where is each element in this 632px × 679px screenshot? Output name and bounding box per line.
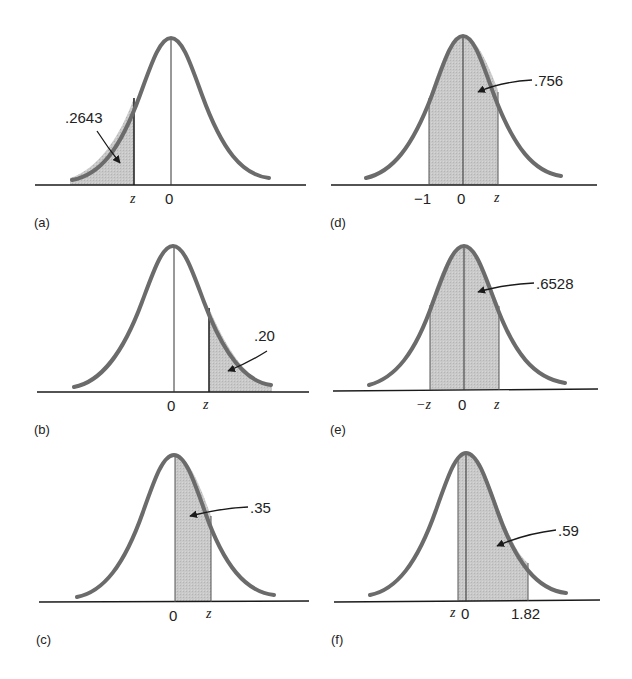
panel-label: (a)	[34, 215, 50, 230]
tick-z: z	[129, 191, 136, 206]
area-label: .35	[250, 499, 271, 516]
tick-zero: 0	[167, 397, 175, 414]
axis	[333, 389, 598, 391]
panel-d: .756 −1 0 z (d)	[330, 36, 597, 230]
panel-f: .59 z 0 1.82 (f)	[331, 453, 600, 647]
normal-curve-figure: .2643 z 0 (a) .756 −1 0 z (d) .20 0 z (b…	[0, 0, 632, 679]
panel-label: (b)	[34, 422, 50, 437]
tick-zero: 0	[165, 190, 173, 207]
area-label: .59	[558, 522, 579, 539]
area-label: .2643	[65, 109, 103, 126]
panel-c: .35 0 z (c)	[36, 455, 309, 647]
tick-zero: 0	[457, 190, 465, 207]
panel-b: .20 0 z (b)	[34, 246, 309, 437]
panel-label: (f)	[331, 632, 343, 647]
tick-zero: 0	[461, 605, 469, 622]
area-label: .6528	[536, 275, 574, 292]
panel-e: .6528 −z 0 z (e)	[330, 246, 598, 437]
tick-z: z	[202, 397, 209, 412]
tick-minus-one: −1	[414, 190, 431, 207]
panel-a: .2643 z 0 (a)	[34, 38, 306, 230]
panel-label: (e)	[330, 422, 346, 437]
area-label: .20	[254, 327, 275, 344]
shaded-area	[209, 308, 272, 392]
tick-z: z	[205, 606, 212, 621]
area-label: .756	[534, 72, 563, 89]
shaded-area	[458, 453, 528, 601]
tick-minus-z: −z	[416, 397, 431, 412]
tick-z: z	[449, 605, 456, 620]
tick-z: z	[493, 190, 500, 205]
tick-upper-bound: 1.82	[511, 605, 540, 622]
tick-z: z	[493, 397, 500, 412]
axis	[39, 601, 309, 602]
panel-label: (d)	[330, 215, 346, 230]
tick-zero: 0	[458, 396, 466, 413]
panel-label: (c)	[36, 632, 51, 647]
tick-zero: 0	[169, 607, 177, 624]
